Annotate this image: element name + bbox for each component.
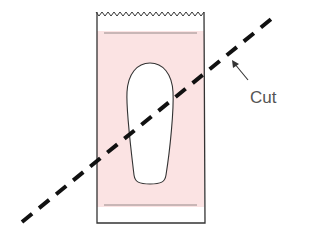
cut-arrow-head-icon [232, 60, 239, 68]
cut-label: Cut [250, 88, 277, 107]
pouch-cut-diagram: Cut [0, 0, 310, 246]
insole-cutout [127, 63, 173, 184]
serrated-top-edge [96, 12, 204, 16]
